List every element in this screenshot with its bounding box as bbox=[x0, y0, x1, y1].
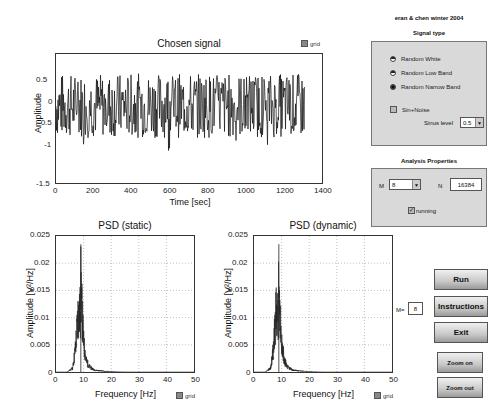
ytick: 0.01 bbox=[34, 313, 50, 322]
running-checkbox[interactable]: ✓ running bbox=[408, 207, 436, 214]
grid-checkbox[interactable] bbox=[301, 40, 308, 47]
chevron-down-icon[interactable]: ▼ bbox=[412, 180, 420, 189]
ytick: -1 bbox=[44, 140, 51, 149]
grid-label: grid bbox=[310, 41, 320, 47]
grid-checkbox[interactable] bbox=[374, 392, 381, 399]
signal-plot-area[interactable] bbox=[55, 53, 323, 184]
ytick: -1.5 bbox=[36, 179, 50, 188]
signal-xlabel: Time [sec] bbox=[150, 197, 230, 207]
sinus-level-label: Sinus level bbox=[424, 120, 453, 126]
ytick: 0.02 bbox=[232, 258, 248, 267]
xtick: 40 bbox=[361, 375, 370, 384]
radio-icon[interactable] bbox=[390, 70, 396, 76]
ytick: 0.02 bbox=[34, 258, 50, 267]
sin-noise-checkbox[interactable]: Sin+Noise bbox=[390, 106, 430, 113]
m-select[interactable]: 8 ▼ bbox=[389, 179, 421, 190]
signal-waveform bbox=[56, 54, 322, 183]
radio-random-white[interactable]: Random White bbox=[390, 56, 441, 62]
checkbox-icon[interactable] bbox=[390, 106, 397, 113]
checkbox-label: running bbox=[416, 208, 436, 214]
signal-xticks: 0 200 400 600 800 1000 1200 1400 bbox=[55, 186, 323, 196]
xtick: 20 bbox=[107, 375, 116, 384]
m-label: M bbox=[379, 183, 384, 189]
xtick: 30 bbox=[135, 375, 144, 384]
xtick: 0 bbox=[53, 375, 57, 384]
run-button[interactable]: Run bbox=[434, 269, 488, 290]
xtick: 400 bbox=[124, 186, 137, 195]
signal-grid-toggle[interactable]: grid bbox=[301, 40, 320, 47]
grid-checkbox[interactable] bbox=[176, 392, 183, 399]
ytick: 0.015 bbox=[30, 285, 50, 294]
xtick: 20 bbox=[305, 375, 314, 384]
radio-random-low-band[interactable]: Random Low Band bbox=[390, 70, 452, 76]
n-input[interactable]: 16384 bbox=[450, 178, 482, 191]
radio-random-narrow-band[interactable]: Random Narrow Band bbox=[390, 84, 460, 90]
signal-type-title: Signal type bbox=[371, 30, 487, 36]
signal-ylabel: Amplitude bbox=[33, 83, 43, 143]
radio-icon[interactable] bbox=[390, 56, 396, 62]
ytick: 0.01 bbox=[232, 313, 248, 322]
xtick: 30 bbox=[333, 375, 342, 384]
psd-dynamic-grid-toggle[interactable]: grid bbox=[374, 392, 393, 399]
credits-label: eran & chen winter 2004 bbox=[371, 15, 487, 21]
psd-dynamic-ylabel: Amplitude [V²/Hz] bbox=[223, 253, 233, 353]
ytick: 0 bbox=[48, 368, 52, 377]
psd-dynamic-xlabel: Frequency [Hz] bbox=[293, 389, 354, 399]
radio-label: Random Narrow Band bbox=[401, 84, 460, 90]
xtick: 1400 bbox=[314, 186, 332, 195]
xtick: 600 bbox=[163, 186, 176, 195]
xtick: 800 bbox=[201, 186, 214, 195]
xtick: 1200 bbox=[276, 186, 294, 195]
chevron-down-icon[interactable]: ▼ bbox=[475, 118, 483, 127]
psd-static-xticks: 0 10 20 30 40 50 bbox=[55, 375, 195, 385]
psd-static-xlabel: Frequency [Hz] bbox=[95, 389, 156, 399]
psd-dynamic-curve bbox=[254, 236, 392, 372]
radio-label: Random White bbox=[401, 56, 441, 62]
xtick: 0 bbox=[251, 375, 255, 384]
m-display-value: 8 bbox=[408, 302, 423, 315]
instructions-button[interactable]: Instructions bbox=[434, 296, 488, 317]
xtick: 50 bbox=[389, 375, 398, 384]
exit-button[interactable]: Exit bbox=[434, 322, 488, 343]
psd-static-curve bbox=[56, 236, 194, 372]
grid-label: grid bbox=[185, 393, 195, 399]
ytick: -0.5 bbox=[38, 118, 52, 127]
xtick: 50 bbox=[191, 375, 200, 384]
ytick: 0 bbox=[246, 368, 250, 377]
ytick: 0.5 bbox=[36, 75, 47, 84]
xtick: 0 bbox=[53, 186, 57, 195]
xtick: 40 bbox=[163, 375, 172, 384]
xtick: 10 bbox=[79, 375, 88, 384]
zoom-on-button[interactable]: Zoom on bbox=[437, 352, 483, 373]
ytick: 0.005 bbox=[228, 340, 248, 349]
xtick: 200 bbox=[86, 186, 99, 195]
signal-plot-title: Chosen signal bbox=[55, 38, 323, 49]
radio-icon[interactable] bbox=[390, 84, 396, 90]
select-value: 8 bbox=[392, 182, 395, 188]
xtick: 10 bbox=[277, 375, 286, 384]
signal-type-panel: Random White Random Low Band Random Narr… bbox=[371, 41, 487, 146]
psd-static-title: PSD (static) bbox=[55, 220, 195, 231]
ytick: 0.025 bbox=[30, 230, 50, 239]
grid-label: grid bbox=[383, 393, 393, 399]
ytick: 0 bbox=[48, 97, 52, 106]
n-label: N bbox=[438, 183, 442, 189]
analysis-title: Analysis Properties bbox=[371, 158, 487, 164]
checkbox-label: Sin+Noise bbox=[402, 107, 430, 113]
m-display-label: M= bbox=[396, 307, 405, 313]
psd-static-ylabel: Amplitude [V²/Hz] bbox=[25, 253, 35, 353]
sinus-level-select[interactable]: 0.5 ▼ bbox=[460, 117, 484, 128]
ytick: 0.025 bbox=[228, 230, 248, 239]
psd-dynamic-xticks: 0 10 20 30 40 50 bbox=[253, 375, 393, 385]
xtick: 1000 bbox=[237, 186, 255, 195]
ytick: 0.015 bbox=[228, 285, 248, 294]
analysis-panel: M 8 ▼ N 16384 ✓ running bbox=[371, 168, 487, 227]
ytick: 0.005 bbox=[30, 340, 50, 349]
psd-dynamic-plot-area[interactable] bbox=[253, 235, 393, 373]
psd-static-grid-toggle[interactable]: grid bbox=[176, 392, 195, 399]
psd-static-plot-area[interactable] bbox=[55, 235, 195, 373]
check-icon[interactable]: ✓ bbox=[408, 207, 415, 214]
radio-label: Random Low Band bbox=[401, 70, 452, 76]
select-value: 0.5 bbox=[463, 120, 471, 126]
zoom-out-button[interactable]: Zoom out bbox=[437, 377, 483, 398]
